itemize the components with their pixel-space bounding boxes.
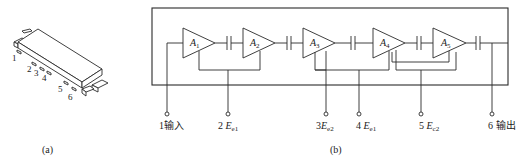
package-pin-4: 4	[42, 73, 47, 83]
schematic	[152, 8, 508, 112]
package-pin-5: 5	[58, 84, 63, 94]
terminal-5	[419, 112, 423, 116]
package-pin-2: 2	[27, 64, 32, 74]
caption-b: (b)	[330, 144, 342, 156]
pin-terminals	[165, 112, 494, 116]
terminal-3	[324, 112, 328, 116]
pin-label-6: 6 输出	[488, 119, 516, 131]
caption-a: (a)	[42, 144, 53, 156]
pin-label-4: 4 Ee1	[356, 120, 377, 133]
package-pin-3: 3	[34, 68, 39, 78]
terminal-6	[490, 112, 494, 116]
package-pin-6: 6	[68, 92, 73, 102]
diagram-canvas: 1 2 3 4 5 6 (a)	[0, 0, 520, 164]
terminal-2	[226, 112, 230, 116]
pin-labels: 1输入 2 Ee1 3Ee2 4 Ee1 5 Ec2 6 输出	[159, 119, 516, 133]
pin-label-1: 1输入	[159, 119, 184, 131]
pin-label-3: 3Ee2	[316, 120, 334, 133]
pin-label-5: 5 Ec2	[419, 120, 440, 133]
package-pin-1: 1	[12, 53, 17, 63]
terminal-4	[357, 112, 361, 116]
pin-label-2: 2 Ee1	[218, 120, 239, 133]
terminal-1	[165, 112, 169, 116]
